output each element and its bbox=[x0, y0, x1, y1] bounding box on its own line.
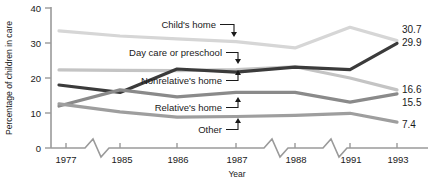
series-line-other bbox=[59, 104, 397, 122]
end-value-nonrelative-home: 16.6 bbox=[402, 84, 422, 95]
y-axis-title: Percentage of children in care bbox=[4, 21, 14, 135]
series-annotation-child-home: Child's home bbox=[161, 19, 216, 30]
end-value-other: 7.4 bbox=[402, 119, 416, 130]
series-annotation-nonrelative-home: Nonrelative's home bbox=[141, 75, 222, 86]
chart-svg: 40 30 20 10 0 1977 1985 1986 1987 1988 1… bbox=[0, 0, 430, 183]
end-value-child-home: 30.7 bbox=[402, 24, 422, 35]
series-line-relative-home bbox=[59, 90, 397, 106]
arrowhead-up-icon-other bbox=[235, 118, 241, 123]
leader-line-other bbox=[226, 122, 238, 130]
x-tick-label-1985: 1985 bbox=[111, 154, 132, 165]
y-tick-label-0: 0 bbox=[36, 143, 41, 154]
x-tick-label-1993: 1993 bbox=[387, 154, 408, 165]
x-tick-label-1988: 1988 bbox=[285, 154, 306, 165]
y-tick-label-40: 40 bbox=[30, 3, 41, 14]
end-value-day-care: 29.9 bbox=[402, 37, 422, 48]
x-tick-label-1987: 1987 bbox=[226, 154, 247, 165]
series-annotation-other: Other bbox=[198, 124, 222, 135]
line-chart: 40 30 20 10 0 1977 1985 1986 1987 1988 1… bbox=[0, 0, 430, 183]
y-tick-label-10: 10 bbox=[30, 108, 41, 119]
arrowhead-up-icon-relative-home bbox=[235, 97, 241, 102]
series-line-day-care bbox=[59, 43, 397, 92]
series-line-child-home bbox=[59, 27, 397, 48]
y-tick-label-30: 30 bbox=[30, 38, 41, 49]
x-axis-title: Year bbox=[228, 169, 245, 179]
y-tick-label-20: 20 bbox=[30, 73, 41, 84]
x-tick-label-1977: 1977 bbox=[55, 154, 76, 165]
x-tick-label-1986: 1986 bbox=[167, 154, 188, 165]
leader-line-child-home bbox=[220, 25, 234, 34]
end-value-relative-home: 15.5 bbox=[402, 97, 422, 108]
series-annotation-relative-home: Relative's home bbox=[155, 102, 222, 113]
x-tick-label-1991: 1991 bbox=[340, 154, 361, 165]
leader-line-day-care bbox=[226, 53, 238, 61]
series-annotation-day-care: Day care or preschool bbox=[129, 47, 222, 58]
arrowhead-down-icon-day-care bbox=[235, 59, 241, 64]
arrowhead-down-icon-child-home bbox=[231, 32, 237, 37]
